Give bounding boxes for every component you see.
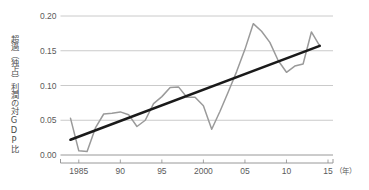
x-axis-unit-label: （年） — [335, 166, 356, 176]
y-tick-label-group: 0.000.050.100.150.20 — [40, 11, 57, 160]
chart-container: 超過（独占）利潤の対GDP比 0.000.050.100.150.20 1985… — [0, 0, 369, 190]
x-tick-label: 05 — [240, 166, 250, 176]
y-tick-label: 0.00 — [40, 150, 57, 160]
x-tick-label-group: 198590952000051015 — [69, 166, 333, 176]
x-tick-label: 15 — [323, 166, 333, 176]
chart-plot: 0.000.050.100.150.20 198590952000051015 … — [0, 0, 369, 190]
data-series-line — [70, 24, 319, 152]
trend-line — [70, 46, 319, 140]
x-tick-label: 10 — [282, 166, 292, 176]
x-tick-label: 90 — [116, 166, 126, 176]
data-series-group — [70, 24, 319, 152]
y-tick-label: 0.20 — [40, 11, 57, 21]
x-tick-label: 1985 — [69, 166, 88, 176]
y-tick-label: 0.05 — [40, 115, 57, 125]
x-axis-group — [61, 159, 334, 163]
x-tick-label: 2000 — [194, 166, 213, 176]
x-tick-label: 95 — [157, 166, 167, 176]
gridline-group — [61, 16, 334, 155]
y-tick-label: 0.10 — [40, 81, 57, 91]
y-tick-label: 0.15 — [40, 46, 57, 56]
